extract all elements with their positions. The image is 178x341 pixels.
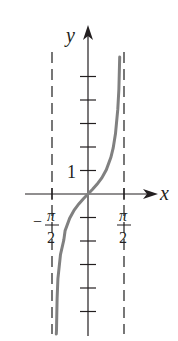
y-axis-label: y <box>64 24 75 47</box>
x-axis-label: x <box>159 182 169 204</box>
pos-two: 2 <box>119 229 127 246</box>
neg-pi: π <box>47 207 56 224</box>
neg-two: 2 <box>47 229 55 246</box>
pos-pi: π <box>119 207 128 224</box>
y-tick-label-one: 1 <box>67 162 76 182</box>
neg-sign: − <box>33 213 42 230</box>
tangent-graph: y x 1 − π 2 π 2 <box>0 0 178 341</box>
